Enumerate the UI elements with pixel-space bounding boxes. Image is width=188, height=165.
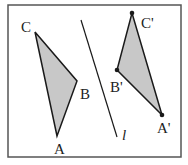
label-b-prime: B' — [110, 79, 123, 95]
reflection-diagram: C B A C' B' A' l — [0, 0, 188, 165]
label-c-prime: C' — [141, 15, 154, 31]
diagram-frame — [8, 5, 181, 157]
vertex-dot-b-prime — [115, 68, 120, 73]
vertex-dot-c-prime — [130, 11, 135, 16]
vertex-dot-a-prime — [160, 113, 165, 118]
label-a: A — [54, 141, 65, 157]
triangle-a-prime-b-prime-c-prime — [117, 13, 162, 115]
label-b: B — [80, 86, 90, 102]
label-a-prime: A' — [157, 120, 171, 136]
label-c: C — [21, 19, 31, 35]
triangle-abc — [35, 32, 77, 136]
label-line-l: l — [122, 127, 126, 143]
